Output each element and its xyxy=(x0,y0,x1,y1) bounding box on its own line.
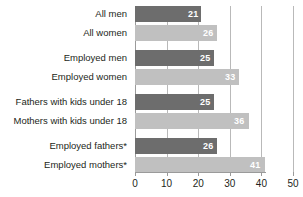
bar-value-mothers-with-kids-under-18: 36 xyxy=(234,117,244,126)
bar-value-all-women: 26 xyxy=(203,29,213,38)
category-label-employed-women: Employed women xyxy=(51,69,127,85)
bar-value-fathers-with-kids-under-18: 25 xyxy=(200,98,210,107)
gridline-50 xyxy=(293,6,294,172)
bar-row-all-men: 21 xyxy=(135,6,293,22)
bar-mothers-with-kids-under-18 xyxy=(135,113,249,129)
bar-value-employed-men: 25 xyxy=(200,54,210,63)
x-tick-20 xyxy=(198,172,199,176)
bar-row-fathers-with-kids-under-18: 25 xyxy=(135,94,293,110)
category-label-all-men: All men xyxy=(95,6,127,22)
x-tick-label-30: 30 xyxy=(224,178,235,189)
bar-value-employed-women: 33 xyxy=(225,73,235,82)
x-tick-30 xyxy=(230,172,231,176)
category-label-employed-fathers: Employed fathers* xyxy=(49,138,127,154)
bar-row-employed-women: 33 xyxy=(135,69,293,85)
horizontal-bar-chart: All men All women Employed men Employed … xyxy=(0,0,303,197)
bar-employed-mothers xyxy=(135,157,265,173)
category-label-fathers-with-kids-under-18: Fathers with kids under 18 xyxy=(16,94,127,110)
category-axis-labels: All men All women Employed men Employed … xyxy=(0,6,131,172)
bar-employed-women xyxy=(135,69,239,85)
x-tick-label-40: 40 xyxy=(256,178,267,189)
category-label-mothers-with-kids-under-18: Mothers with kids under 18 xyxy=(13,113,127,129)
x-tick-50 xyxy=(293,172,294,176)
bar-value-all-men: 21 xyxy=(188,10,198,19)
x-tick-0 xyxy=(135,172,136,176)
bar-row-employed-fathers: 26 xyxy=(135,138,293,154)
bar-row-employed-men: 25 xyxy=(135,50,293,66)
x-axis: 0 10 20 30 40 50 xyxy=(135,172,293,194)
bar-row-mothers-with-kids-under-18: 36 xyxy=(135,113,293,129)
x-tick-label-50: 50 xyxy=(287,178,298,189)
category-label-employed-men: Employed men xyxy=(64,50,127,66)
x-tick-10 xyxy=(167,172,168,176)
x-tick-label-20: 20 xyxy=(193,178,204,189)
bar-row-employed-mothers: 41 xyxy=(135,157,293,173)
category-label-all-women: All women xyxy=(83,25,127,41)
bar-value-employed-fathers: 26 xyxy=(203,142,213,151)
x-tick-40 xyxy=(261,172,262,176)
category-label-employed-mothers: Employed mothers* xyxy=(44,157,127,173)
bar-row-all-women: 26 xyxy=(135,25,293,41)
x-tick-label-10: 10 xyxy=(161,178,172,189)
bar-rows: 21 26 25 33 25 36 xyxy=(135,6,293,172)
bar-value-employed-mothers: 41 xyxy=(250,161,260,170)
x-tick-label-0: 0 xyxy=(132,178,138,189)
plot-area: 21 26 25 33 25 36 xyxy=(135,6,293,172)
